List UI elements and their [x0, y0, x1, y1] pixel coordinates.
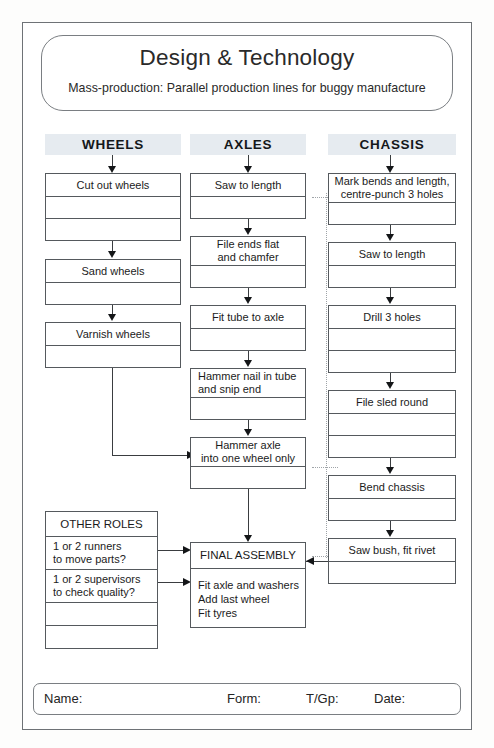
step-blank-row[interactable] — [46, 219, 180, 242]
process-box-saw-to-length-chassis[interactable]: Saw to length — [328, 242, 456, 288]
other-roles-blank-row[interactable] — [46, 626, 157, 649]
arrow-wheels-2-3 — [108, 314, 116, 321]
arrow-axles-2-3 — [244, 297, 252, 304]
step-blank-row[interactable] — [329, 203, 455, 226]
step-label: File sled round — [329, 391, 455, 414]
step-blank-row[interactable] — [46, 346, 180, 369]
process-box-varnish-wheels[interactable]: Varnish wheels — [45, 322, 181, 368]
process-box-bend-chassis[interactable]: Bend chassis — [328, 475, 456, 521]
process-box-saw-bush-fit-rivet[interactable]: Saw bush, fit rivet — [328, 538, 456, 584]
arrow-chassis-4-5 — [386, 467, 394, 474]
step-label: Drill 3 holes — [329, 306, 455, 329]
page-subtitle: Mass-production: Parallel production lin… — [42, 81, 452, 95]
arrow-chassis-5-6 — [386, 530, 394, 537]
other-roles-item-supervisors: 1 or 2 supervisors to check quality? — [46, 570, 157, 603]
step-blank-row[interactable] — [329, 266, 455, 289]
step-blank-row[interactable] — [191, 467, 305, 490]
arrow-chassis-2-3 — [386, 297, 394, 304]
form-label: Form: — [227, 691, 261, 706]
process-box-mark-bends[interactable]: Mark bends and length, centre-punch 3 ho… — [328, 173, 456, 225]
connector-roles-supervisors — [158, 582, 186, 583]
footer-field-row: Name: Form: T/Gp: Date: — [33, 683, 461, 715]
other-roles-title: OTHER ROLES — [46, 512, 157, 537]
step-blank-row[interactable] — [191, 197, 305, 220]
step-blank-row[interactable] — [191, 329, 305, 352]
process-box-file-ends-flat[interactable]: File ends flat and chamfer — [190, 236, 306, 288]
connector-hammer-to-final — [248, 489, 249, 538]
step-label: Sand wheels — [46, 260, 180, 283]
step-label: Mark bends and length, centre-punch 3 ho… — [329, 174, 455, 203]
arrow-chassis-1-2 — [386, 234, 394, 241]
name-label: Name: — [44, 691, 82, 706]
process-box-sand-wheels[interactable]: Sand wheels — [45, 259, 181, 305]
process-box-hammer-axle[interactable]: Hammer axle into one wheel only — [190, 437, 306, 489]
process-box-saw-to-length-axle[interactable]: Saw to length — [190, 173, 306, 219]
arrow-axles-head — [244, 166, 252, 173]
process-box-cut-out-wheels[interactable]: Cut out wheels — [45, 173, 181, 241]
arrow-chassis-3-4 — [386, 382, 394, 389]
step-label: Cut out wheels — [46, 174, 180, 197]
final-assembly-title: FINAL ASSEMBLY — [191, 543, 305, 569]
page-title: Design & Technology — [42, 45, 452, 71]
step-blank-row[interactable] — [329, 329, 455, 351]
arrow-wheels-head — [108, 166, 116, 173]
step-blank-row[interactable] — [329, 499, 455, 522]
step-label: Hammer nail in tube and snip end — [191, 369, 305, 398]
group-label: T/Gp: — [306, 691, 339, 706]
arrow-wheels-1-2 — [108, 251, 116, 258]
final-assembly-box[interactable]: FINAL ASSEMBLY Fit axle and washers Add … — [190, 542, 306, 628]
arrow-hammer-to-final — [244, 535, 252, 542]
step-blank-row[interactable] — [329, 436, 455, 459]
column-header-wheels: WHEELS — [45, 134, 181, 155]
process-box-fit-tube-to-axle[interactable]: Fit tube to axle — [190, 305, 306, 351]
dotted-divider-vertical — [326, 193, 327, 558]
final-assembly-tasks: Fit axle and washers Add last wheel Fit … — [191, 569, 305, 629]
column-header-axles: AXLES — [190, 134, 306, 155]
dotted-divider-mid — [312, 467, 338, 468]
step-blank-row[interactable] — [329, 414, 455, 436]
step-label: Fit tube to axle — [191, 306, 305, 329]
connector-wheels-to-hammer-v — [112, 368, 113, 455]
arrow-axles-1-2 — [244, 228, 252, 235]
step-label: Hammer axle into one wheel only — [191, 438, 305, 467]
column-header-chassis: CHASSIS — [328, 134, 456, 155]
connector-wheels-to-hammer-h — [112, 455, 190, 456]
step-blank-row[interactable] — [191, 398, 305, 421]
connector-roles-runners — [158, 550, 186, 551]
step-label: Saw to length — [191, 174, 305, 197]
arrow-chassis-to-final — [306, 557, 314, 565]
step-label: File ends flat and chamfer — [191, 237, 305, 266]
date-label: Date: — [374, 691, 405, 706]
step-label: Varnish wheels — [46, 323, 180, 346]
arrow-chassis-head — [386, 166, 394, 173]
arrow-axles-4-5 — [244, 429, 252, 436]
step-label: Saw bush, fit rivet — [329, 539, 455, 562]
worksheet-page: Design & Technology Mass-production: Par… — [22, 22, 472, 730]
other-roles-blank-row[interactable] — [46, 603, 157, 626]
step-blank-row[interactable] — [329, 562, 455, 585]
step-blank-row[interactable] — [46, 197, 180, 219]
process-box-file-sled-round[interactable]: File sled round — [328, 390, 456, 458]
arrow-axles-3-4 — [244, 360, 252, 367]
title-box: Design & Technology Mass-production: Par… — [41, 35, 453, 111]
step-blank-row[interactable] — [191, 266, 305, 289]
process-box-drill-3-holes[interactable]: Drill 3 holes — [328, 305, 456, 373]
other-roles-item-runners: 1 or 2 runners to move parts? — [46, 537, 157, 570]
process-box-hammer-nail-in-tube[interactable]: Hammer nail in tube and snip end — [190, 368, 306, 420]
other-roles-box[interactable]: OTHER ROLES 1 or 2 runners to move parts… — [45, 511, 158, 649]
step-blank-row[interactable] — [46, 283, 180, 306]
step-label: Bend chassis — [329, 476, 455, 499]
step-label: Saw to length — [329, 243, 455, 266]
step-blank-row[interactable] — [329, 351, 455, 374]
